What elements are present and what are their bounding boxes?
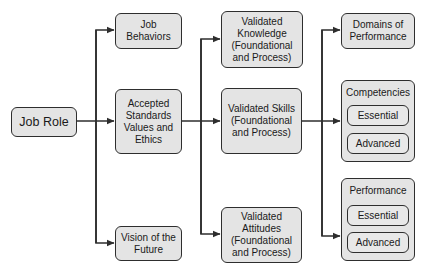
competencies-group: Competencies Essential Advanced: [341, 80, 415, 162]
job-role-box: Job Role: [11, 107, 77, 137]
performance-advanced-box: Advanced: [347, 232, 409, 253]
competencies-title: Competencies: [342, 87, 414, 99]
performance-essential-box: Essential: [347, 205, 409, 226]
job-behaviors-label: Job Behaviors: [126, 19, 170, 43]
competencies-essential-box: Essential: [347, 105, 409, 126]
validated-attitudes-label: Validated Attitudes (Foundational and Pr…: [225, 211, 298, 259]
accepted-standards-label: Accepted Standards Values and Ethics: [120, 98, 177, 146]
competencies-essential-label: Essential: [358, 110, 399, 121]
vision-of-future-box: Vision of the Future: [115, 226, 182, 261]
validated-knowledge-box: Validated Knowledge (Foundational and Pr…: [221, 11, 303, 68]
competencies-advanced-label: Advanced: [356, 138, 400, 149]
validated-knowledge-label: Validated Knowledge (Foundational and Pr…: [225, 16, 299, 64]
competencies-advanced-box: Advanced: [347, 133, 409, 154]
vision-of-future-label: Vision of the Future: [119, 232, 178, 256]
performance-group: Performance Essential Advanced: [341, 178, 415, 261]
validated-attitudes-box: Validated Attitudes (Foundational and Pr…: [221, 207, 302, 263]
performance-advanced-label: Advanced: [356, 237, 400, 248]
job-behaviors-box: Job Behaviors: [115, 13, 182, 49]
domains-of-performance-label: Domains of Performance: [345, 19, 411, 43]
accepted-standards-box: Accepted Standards Values and Ethics: [115, 89, 182, 154]
job-role-label: Job Role: [19, 116, 68, 128]
domains-of-performance-box: Domains of Performance: [341, 13, 415, 49]
validated-skills-label: Validated Skills (Foundational and Proce…: [225, 103, 298, 139]
performance-title: Performance: [342, 185, 414, 197]
performance-essential-label: Essential: [358, 210, 399, 221]
validated-skills-box: Validated Skills (Foundational and Proce…: [221, 88, 302, 154]
